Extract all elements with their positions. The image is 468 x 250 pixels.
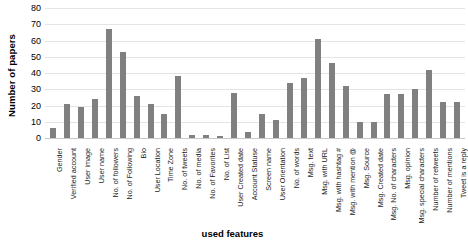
x-axis-tick-slot: Msg. No. of characters — [381, 148, 395, 226]
bar[interactable] — [189, 135, 195, 138]
bar[interactable] — [357, 122, 363, 138]
x-axis-tick-slot: Number of retweets — [422, 148, 436, 226]
x-axis-tick-slot: Msg. opinion — [394, 148, 408, 226]
x-axis-tick-label: Tweet is a reply — [460, 148, 468, 198]
x-axis-tick-slot: Msg. Source — [353, 148, 367, 226]
bar[interactable] — [106, 29, 112, 138]
bar-slot — [325, 8, 339, 138]
y-axis-tick-label: 0 — [36, 133, 41, 143]
x-axis-tick-slot: No. of Favorites — [199, 148, 213, 226]
bar-slot — [394, 8, 408, 138]
bar-slot — [46, 8, 60, 138]
x-axis-tick-labels: GenderVerified accountUser imageUser nam… — [45, 148, 465, 226]
x-axis-tick-slot: No. of followers — [102, 148, 116, 226]
y-axis-tick-label: 50 — [31, 52, 41, 62]
bar[interactable] — [134, 96, 140, 138]
x-axis-tick-slot: No. of Following — [116, 148, 130, 226]
bar[interactable] — [273, 120, 279, 138]
x-axis-tick-slot: Gender — [46, 148, 60, 226]
bar-slot — [88, 8, 102, 138]
bar[interactable] — [203, 135, 209, 138]
x-axis-tick-slot: Number of mentions — [436, 148, 450, 226]
x-axis-tick-slot: Msg. Created date — [367, 148, 381, 226]
y-axis-tick-label: 10 — [31, 117, 41, 127]
bar[interactable] — [343, 86, 349, 138]
bar-slot — [130, 8, 144, 138]
bar-slot — [116, 8, 130, 138]
bar-slot — [381, 8, 395, 138]
bar-slot — [74, 8, 88, 138]
bar[interactable] — [329, 63, 335, 138]
y-axis-title: Number of papers — [0, 0, 22, 150]
bar-slot — [255, 8, 269, 138]
bar[interactable] — [301, 78, 307, 138]
x-axis-tick-slot: Verified account — [60, 148, 74, 226]
bar[interactable] — [454, 102, 460, 138]
x-axis-tick-slot: Account Statuse — [241, 148, 255, 226]
x-axis-tick-slot: Time Zone — [158, 148, 172, 226]
x-axis-tick-slot: Msg. text — [297, 148, 311, 226]
y-axis-tick-label: 80 — [31, 3, 41, 13]
x-axis-tick-slot: User name — [88, 148, 102, 226]
bar-slot — [199, 8, 213, 138]
bar[interactable] — [440, 102, 446, 138]
y-axis-tick-label: 40 — [31, 68, 41, 78]
bar[interactable] — [231, 93, 237, 139]
bar[interactable] — [315, 39, 321, 138]
y-axis-tick-label: 20 — [31, 101, 41, 111]
x-axis-tick-slot: No. of tweets — [171, 148, 185, 226]
x-axis-tick-slot: Msg. with URL — [311, 148, 325, 226]
bar[interactable] — [287, 83, 293, 138]
x-axis-tick-slot: User Location — [144, 148, 158, 226]
x-axis-tick-slot: User Created date — [227, 148, 241, 226]
bar-series — [45, 8, 465, 138]
bar-slot — [171, 8, 185, 138]
bar[interactable] — [64, 104, 70, 138]
bar[interactable] — [175, 76, 181, 138]
x-axis-tick-slot: Msg. special characters — [408, 148, 422, 226]
x-axis-tick-slot: No. of List — [213, 148, 227, 226]
x-axis-tick-slot: Bio — [130, 148, 144, 226]
bar-slot — [213, 8, 227, 138]
bar[interactable] — [148, 104, 154, 138]
x-axis-tick-slot: Screen name — [255, 148, 269, 226]
bar[interactable] — [412, 89, 418, 138]
bar-slot — [144, 8, 158, 138]
bar-slot — [297, 8, 311, 138]
plot-wrapper: 01020304050607080 — [22, 8, 465, 148]
bar[interactable] — [92, 99, 98, 138]
bar[interactable] — [120, 52, 126, 138]
bar-slot — [450, 8, 464, 138]
x-axis-tick-slot: No. of words — [283, 148, 297, 226]
x-axis-title: used features — [0, 228, 465, 239]
x-axis-tick-slot: User image — [74, 148, 88, 226]
bar-slot — [60, 8, 74, 138]
bar-slot — [102, 8, 116, 138]
bar[interactable] — [50, 128, 56, 138]
y-axis-tick-label: 30 — [31, 84, 41, 94]
y-axis-tick-label: 60 — [31, 36, 41, 46]
bar-slot — [311, 8, 325, 138]
bar-slot — [158, 8, 172, 138]
bar-slot — [339, 8, 353, 138]
bar-slot — [269, 8, 283, 138]
bar-slot — [283, 8, 297, 138]
bar[interactable] — [259, 114, 265, 138]
bar-slot — [227, 8, 241, 138]
y-axis-tick-labels: 01020304050607080 — [22, 8, 43, 148]
bar[interactable] — [426, 70, 432, 138]
bar-slot — [408, 8, 422, 138]
bar-slot — [241, 8, 255, 138]
bar[interactable] — [161, 114, 167, 138]
bar-slot — [353, 8, 367, 138]
bar[interactable] — [384, 94, 390, 138]
x-axis-tick-slot: User Orientation — [269, 148, 283, 226]
x-axis-title-label: used features — [202, 228, 264, 239]
bar[interactable] — [371, 122, 377, 138]
y-axis-tick-label: 70 — [31, 19, 41, 29]
bar[interactable] — [245, 132, 251, 139]
bar[interactable] — [398, 94, 404, 138]
bar[interactable] — [217, 136, 223, 138]
bar[interactable] — [78, 107, 84, 138]
